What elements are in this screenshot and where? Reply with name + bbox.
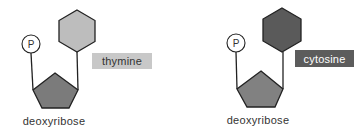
phosphate-bond-line xyxy=(31,53,33,90)
deoxyribose-caption: deoxyribose xyxy=(213,114,303,126)
deoxyribose-pentagon-icon xyxy=(33,73,78,108)
thymine-label-box: thymine xyxy=(92,53,152,69)
base-bond-line xyxy=(77,52,78,90)
deoxyribose-pentagon-icon xyxy=(237,71,283,107)
deoxyribose-caption: deoxyribose xyxy=(9,115,99,127)
cytosine-label-box: cytosine xyxy=(295,50,354,67)
thymine-hexagon-icon xyxy=(59,10,95,52)
nucleotide-thymine: P xyxy=(22,10,95,108)
phosphate-bond-line xyxy=(236,52,237,89)
nucleotide-diagram: P P thymine cytosine deoxyribose deoxyri… xyxy=(0,0,356,134)
phosphate-label: P xyxy=(233,38,240,49)
cytosine-hexagon-icon xyxy=(263,8,301,52)
phosphate-label: P xyxy=(28,39,35,50)
nucleotide-cytosine: P xyxy=(227,8,301,107)
base-label: thymine xyxy=(102,55,142,67)
base-label: cytosine xyxy=(304,53,346,65)
